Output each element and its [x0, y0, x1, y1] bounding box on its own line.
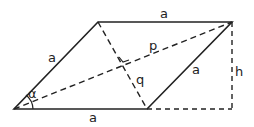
label-top-side: a — [160, 6, 168, 21]
diagonal-q — [98, 22, 147, 109]
label-angle-alpha: α — [28, 86, 37, 101]
rhombus-diagram: a a a a p q h α — [0, 0, 254, 127]
label-bottom-side: a — [89, 110, 97, 125]
label-right-side: a — [192, 62, 200, 77]
label-height: h — [235, 64, 243, 79]
label-diagonal-q: q — [136, 72, 144, 87]
label-diagonal-p: p — [149, 38, 157, 53]
label-left-side: a — [48, 50, 56, 65]
